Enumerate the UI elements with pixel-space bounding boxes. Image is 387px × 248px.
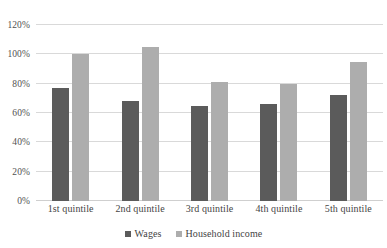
- bar-household-income: [280, 84, 297, 201]
- y-axis-tick-label: 120%: [7, 20, 30, 30]
- bar-household-income: [211, 82, 228, 201]
- bar-wages: [260, 104, 277, 201]
- bar-group: [36, 25, 105, 201]
- x-axis: 1st quintile2nd quintile3rd quintile4th …: [36, 203, 383, 219]
- legend-swatch-icon: [176, 231, 182, 237]
- bar-group: [314, 25, 383, 201]
- bar-household-income: [350, 62, 367, 201]
- bar-chart: 0%20%40%60%80%100%120% 1st quintile2nd q…: [0, 0, 387, 248]
- plot-area: [36, 25, 383, 201]
- bars-layer: [36, 25, 383, 201]
- y-axis-tick-label: 20%: [12, 167, 30, 177]
- y-axis-tick-label: 40%: [12, 137, 30, 147]
- y-axis-tick-label: 0%: [17, 196, 30, 206]
- y-axis-tick-label: 80%: [12, 79, 30, 89]
- legend-label: Household income: [186, 228, 263, 239]
- bar-group: [175, 25, 244, 201]
- bar-household-income: [142, 47, 159, 201]
- bar-group: [105, 25, 174, 201]
- bar-wages: [330, 95, 347, 201]
- x-axis-tick-label: 1st quintile: [36, 203, 105, 219]
- bar-group: [244, 25, 313, 201]
- legend-swatch-icon: [125, 231, 131, 237]
- x-axis-tick-label: 5th quintile: [314, 203, 383, 219]
- y-axis-tick-label: 100%: [7, 49, 30, 59]
- bar-household-income: [72, 54, 89, 201]
- bar-wages: [191, 106, 208, 201]
- bar-wages: [122, 101, 139, 201]
- x-axis-tick-label: 3rd quintile: [175, 203, 244, 219]
- legend-item: Household income: [176, 228, 263, 239]
- legend-label: Wages: [135, 228, 162, 239]
- y-axis: 0%20%40%60%80%100%120%: [0, 25, 34, 201]
- bar-wages: [52, 88, 69, 201]
- x-axis-tick-label: 4th quintile: [244, 203, 313, 219]
- y-axis-tick-label: 60%: [12, 108, 30, 118]
- x-axis-tick-label: 2nd quintile: [105, 203, 174, 219]
- legend-item: Wages: [125, 228, 162, 239]
- chart-legend: WagesHousehold income: [0, 228, 387, 239]
